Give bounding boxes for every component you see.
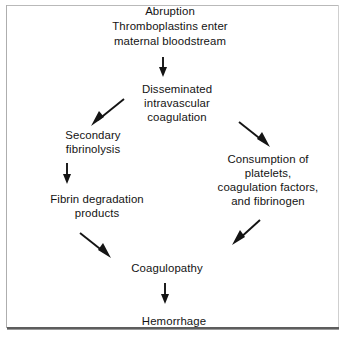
- node-hemorrhage-line-1: Hemorrhage: [142, 315, 206, 327]
- node-fdp-line-2: products: [75, 207, 120, 219]
- edge-dic-to-secondary-fibrinolysis-arrowhead: [91, 111, 104, 126]
- edge-dic-to-consumption-arrowhead: [257, 132, 270, 147]
- node-coagulopathy-line-1: Coagulopathy: [131, 262, 203, 274]
- node-hemorrhage: Hemorrhage: [142, 315, 206, 327]
- node-secondary-fibrinolysis: Secondary fibrinolysis: [65, 129, 121, 155]
- node-coagulopathy: Coagulopathy: [131, 262, 203, 274]
- edge-fdp-to-coagulopathy: [80, 233, 111, 258]
- node-consumption: Consumption of platelets, coagulation fa…: [218, 153, 319, 207]
- figure-canvas: Abruption Thromboplastins enter maternal…: [0, 0, 341, 338]
- node-dic-line-2: intravascular: [144, 97, 210, 109]
- node-abruption-line-3: maternal bloodstream: [114, 35, 226, 47]
- edge-abruption-to-dic: [159, 57, 167, 77]
- edge-secondary-fibrinolysis-to-fdp: [63, 163, 71, 184]
- edge-fdp-to-coagulopathy-arrowhead: [98, 243, 111, 258]
- node-dic: Disseminated intravascular coagulation: [142, 83, 212, 123]
- node-fdp: Fibrin degradation products: [50, 193, 144, 219]
- node-abruption-line-1: Abruption: [145, 5, 195, 17]
- edge-secondary-fibrinolysis-to-fdp-arrowhead: [63, 174, 71, 184]
- node-fdp-line-1: Fibrin degradation: [50, 193, 144, 205]
- edge-dic-to-consumption: [239, 122, 270, 147]
- edge-coagulopathy-to-hemorrhage: [161, 283, 169, 304]
- node-secondary-fibrinolysis-line-2: fibrinolysis: [66, 143, 121, 155]
- node-consumption-line-1: Consumption of: [227, 153, 309, 165]
- node-consumption-line-4: and fibrinogen: [231, 195, 305, 207]
- node-abruption: Abruption Thromboplastins enter maternal…: [112, 5, 228, 47]
- edge-abruption-to-dic-arrowhead: [159, 67, 167, 77]
- node-dic-line-1: Disseminated: [142, 83, 212, 95]
- node-abruption-line-2: Thromboplastins enter: [112, 20, 228, 32]
- flowchart-svg: Abruption Thromboplastins enter maternal…: [0, 0, 341, 338]
- edge-dic-to-secondary-fibrinolysis: [91, 99, 124, 126]
- edge-consumption-to-coagulopathy-arrowhead: [232, 230, 245, 245]
- edge-consumption-to-coagulopathy: [232, 220, 260, 245]
- edge-coagulopathy-to-hemorrhage-arrowhead: [161, 294, 169, 304]
- node-consumption-line-2: platelets,: [245, 167, 292, 179]
- node-secondary-fibrinolysis-line-1: Secondary: [65, 129, 121, 141]
- node-consumption-line-3: coagulation factors,: [218, 181, 319, 193]
- node-dic-line-3: coagulation: [147, 111, 206, 123]
